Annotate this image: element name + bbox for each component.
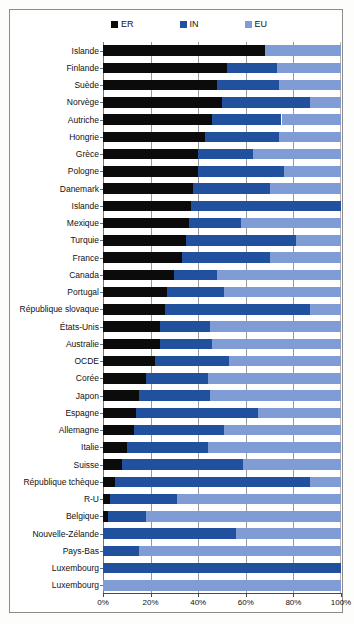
stacked-bar — [103, 63, 341, 74]
bar-segment-er — [103, 235, 186, 246]
bar-segment-er — [103, 459, 122, 470]
bar-segment-er — [103, 356, 155, 367]
category-label: Allemagne — [59, 426, 99, 435]
bar-row: Allemagne — [103, 425, 341, 436]
x-tick-label: 0% — [97, 598, 109, 607]
category-label: États-Unis — [60, 322, 99, 331]
legend-item-eu: EU — [245, 20, 268, 29]
bar-segment-eu — [210, 321, 341, 332]
bar-row: Espagne — [103, 408, 341, 419]
legend-label: IN — [190, 20, 199, 29]
bar-segment-eu — [224, 287, 341, 298]
bar-segment-er — [103, 442, 127, 453]
bar-row: Finlande — [103, 63, 341, 74]
bar-segment-in — [160, 339, 212, 350]
stacked-bar — [103, 373, 341, 384]
bar-row: Autriche — [103, 114, 341, 125]
bar-row: Turquie — [103, 235, 341, 246]
bar-segment-er — [103, 339, 160, 350]
bar-segment-in — [146, 373, 208, 384]
category-label: OCDE — [74, 357, 99, 366]
stacked-bar — [103, 97, 341, 108]
bar-segment-er — [103, 183, 193, 194]
bar-row: Luxembourg — [103, 580, 341, 591]
category-label: Luxembourg — [52, 581, 99, 590]
chart-figure: ERINEU IslandeFinlandeSuèdeNorvègeAutric… — [0, 0, 354, 624]
legend-item-er: ER — [111, 20, 134, 29]
legend-swatch-icon — [245, 21, 252, 28]
bar-segment-eu — [282, 114, 342, 125]
bar-row: République tchèque — [103, 477, 341, 488]
x-axis-line — [103, 593, 342, 594]
bar-segment-er — [103, 45, 265, 56]
bar-segment-er — [103, 218, 189, 229]
bar-segment-in — [193, 183, 269, 194]
category-label: Turquie — [70, 236, 99, 245]
x-tick — [246, 594, 247, 597]
bar-segment-er — [103, 149, 198, 160]
stacked-bar — [103, 442, 341, 453]
x-tick — [103, 594, 104, 597]
category-label: Islande — [72, 46, 99, 55]
bar-row: Grèce — [103, 149, 341, 160]
stacked-bar — [103, 114, 341, 125]
bar-segment-eu — [177, 494, 341, 505]
bar-segment-er — [103, 321, 160, 332]
bar-row: OCDE — [103, 356, 341, 367]
bar-segment-er — [103, 304, 165, 315]
stacked-bar — [103, 80, 341, 91]
category-label: Danemark — [60, 184, 99, 193]
stacked-bar — [103, 149, 341, 160]
stacked-bar — [103, 339, 341, 350]
stacked-bar — [103, 563, 341, 574]
stacked-bar — [103, 356, 341, 367]
bar-segment-eu — [253, 149, 341, 160]
bar-segment-in — [198, 149, 253, 160]
category-label: Corée — [76, 374, 99, 383]
stacked-bar — [103, 494, 341, 505]
category-label: République tchèque — [23, 477, 99, 486]
bar-segment-er — [103, 494, 110, 505]
bar-segment-in — [198, 166, 284, 177]
bar-segment-in — [127, 442, 208, 453]
bar-row: Norvège — [103, 97, 341, 108]
stacked-bar — [103, 252, 341, 263]
bar-segment-eu — [279, 132, 341, 143]
bar-segment-in — [122, 459, 243, 470]
bar-segment-in — [222, 97, 310, 108]
bar-segment-er — [103, 97, 222, 108]
bar-segment-in — [205, 132, 279, 143]
stacked-bar — [103, 477, 341, 488]
legend-item-in: IN — [180, 20, 199, 29]
plot-area: IslandeFinlandeSuèdeNorvègeAutricheHongr… — [103, 42, 341, 594]
bar-segment-eu — [236, 528, 341, 539]
category-label: Belgique — [66, 512, 99, 521]
bar-segment-in — [160, 321, 210, 332]
legend-label: EU — [255, 20, 268, 29]
stacked-bar — [103, 459, 341, 470]
bar-segment-eu — [208, 442, 341, 453]
bar-segment-eu — [284, 166, 341, 177]
category-label: Luxembourg — [52, 564, 99, 573]
bar-segment-eu — [310, 304, 341, 315]
stacked-bar — [103, 580, 341, 591]
bar-row: Suisse — [103, 459, 341, 470]
bar-row: R-U — [103, 494, 341, 505]
bar-row: Nouvelle-Zélande — [103, 528, 341, 539]
category-label: Norvège — [67, 98, 99, 107]
stacked-bar — [103, 270, 341, 281]
x-tick — [151, 594, 152, 597]
category-label: Finlande — [66, 63, 99, 72]
x-axis-tick-labels: 0%20%40%60%80%100% — [103, 598, 341, 612]
stacked-bar — [103, 546, 341, 557]
stacked-bar — [103, 183, 341, 194]
stacked-bar — [103, 304, 341, 315]
category-label: Suisse — [73, 460, 99, 469]
category-label: Portugal — [67, 288, 99, 297]
bar-segment-in — [191, 201, 341, 212]
category-label: Mexique — [67, 219, 99, 228]
bar-segment-er — [103, 166, 198, 177]
bar-segment-in — [165, 304, 310, 315]
category-label: Islande — [72, 201, 99, 210]
x-tick-label: 100% — [331, 598, 351, 607]
